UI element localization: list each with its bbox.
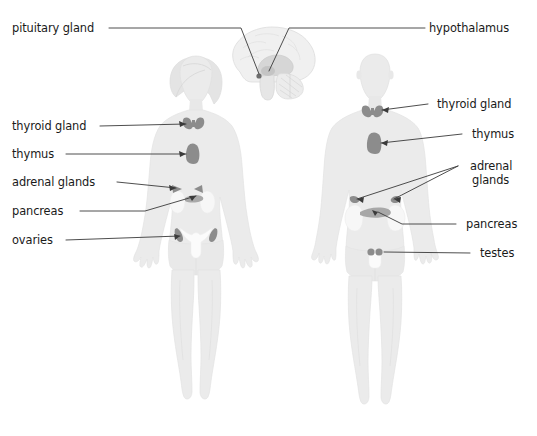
male-left-testis: [367, 248, 374, 255]
male-thymus: [367, 132, 381, 154]
male-figure: [312, 54, 439, 404]
male-left-leg: [348, 276, 372, 404]
male-left-ear: [356, 71, 361, 80]
diagram-canvas: pituitary gland thyroid gland thymus adr…: [0, 0, 537, 436]
label-pituitary-gland: pituitary gland: [12, 21, 94, 35]
male-left-kidney: [345, 205, 363, 231]
label-thymus-female: thymus: [12, 147, 54, 161]
female-head: [180, 56, 212, 101]
female-thymus: [186, 143, 199, 164]
label-adrenal-glands-female: adrenal glands: [12, 175, 95, 189]
male-right-ear: [388, 71, 393, 80]
brainstem: [260, 75, 274, 100]
male-head: [360, 54, 390, 99]
leader-thyroid-male: [382, 104, 428, 110]
label-thyroid-gland-male: thyroid gland: [437, 97, 511, 111]
male-right-testis: [375, 248, 382, 255]
endocrine-diagram: pituitary gland thyroid gland thymus adr…: [0, 0, 537, 436]
male-right-leg: [378, 276, 402, 404]
female-left-leg: [171, 270, 194, 399]
female-left-kidney: [170, 191, 185, 213]
female-right-leg: [198, 270, 221, 399]
label-pancreas-male: pancreas: [466, 217, 517, 231]
label-hypothalamus: hypothalamus: [429, 21, 509, 35]
label-pancreas-female: pancreas: [12, 204, 63, 218]
label-adrenal-male-line2: glands: [472, 173, 509, 187]
label-thymus-male: thymus: [472, 127, 514, 141]
hypothalamus-organ: [261, 66, 275, 76]
left-label-group: pituitary gland thyroid gland thymus adr…: [12, 21, 95, 247]
female-figure: [134, 56, 259, 399]
label-adrenal-male-line1: adrenal: [470, 159, 512, 173]
label-testes-male: testes: [480, 246, 514, 260]
label-thyroid-gland-female: thyroid gland: [12, 119, 86, 133]
leader-ovaries-female: [66, 236, 180, 240]
female-right-kidney: [200, 191, 215, 213]
label-ovaries-female: ovaries: [12, 233, 53, 247]
